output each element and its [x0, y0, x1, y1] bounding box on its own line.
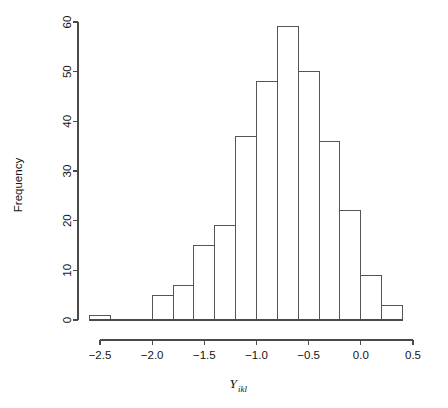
- x-axis-tick-label: −1.0: [245, 349, 268, 361]
- histogram-bar: [194, 246, 215, 321]
- y-axis-title: Frequency: [12, 158, 24, 213]
- histogram-bar: [277, 27, 298, 320]
- x-axis-title-subscript: ikl: [238, 384, 247, 394]
- y-axis-tick-label: 60: [61, 16, 73, 29]
- y-axis-tick-label: 50: [61, 65, 73, 78]
- histogram-bar: [382, 305, 403, 320]
- x-axis: −2.5−2.0−1.5−1.0−0.50.00.5: [89, 340, 421, 361]
- x-axis-tick-label: 0.5: [405, 349, 421, 361]
- y-axis: 0102030405060: [61, 16, 78, 324]
- histogram-bar: [215, 226, 236, 320]
- y-axis-tick-label: 40: [61, 115, 73, 128]
- x-axis-tick-label: 0.0: [353, 349, 369, 361]
- y-axis-tick-label: 20: [61, 214, 73, 227]
- histogram-bar: [257, 82, 278, 320]
- histogram-bar: [173, 285, 194, 320]
- x-axis-tick-label: −1.5: [193, 349, 216, 361]
- y-axis-tick-label: 0: [61, 317, 73, 323]
- x-axis-tick-label: −0.5: [297, 349, 320, 361]
- x-axis-tick-label: −2.5: [89, 349, 112, 361]
- histogram-svg: 0102030405060 −2.5−2.0−1.5−1.0−0.50.00.5…: [0, 0, 448, 408]
- histogram-bar: [340, 211, 361, 320]
- y-axis-tick-label: 10: [61, 264, 73, 277]
- histogram-bar: [319, 141, 340, 320]
- histogram-bar: [361, 275, 382, 320]
- histogram-bar: [298, 72, 319, 320]
- histogram-figure: 0102030405060 −2.5−2.0−1.5−1.0−0.50.00.5…: [0, 0, 448, 408]
- histogram-bar: [152, 295, 173, 320]
- x-axis-tick-label: −2.0: [141, 349, 164, 361]
- histogram-bar: [90, 315, 111, 320]
- histogram-bar: [236, 136, 257, 320]
- y-axis-tick-label: 30: [61, 165, 73, 178]
- histogram-bars: [90, 27, 403, 320]
